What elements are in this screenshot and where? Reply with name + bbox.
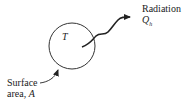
surface-area-symbol: A — [29, 88, 35, 99]
heat-flux-label: Qh — [142, 14, 152, 30]
radiation-wave-arrow — [82, 17, 130, 47]
surface-label-line1: Surface — [7, 77, 38, 88]
body-temperature-label: T — [62, 31, 68, 42]
radiation-label: Radiation — [142, 3, 181, 14]
surface-area-text: area, — [7, 88, 29, 99]
surface-leader-arrow — [40, 70, 58, 83]
heat-flux-subscript: h — [149, 21, 152, 27]
surface-label-line2: area, A — [7, 88, 35, 99]
body-circle — [49, 23, 95, 69]
